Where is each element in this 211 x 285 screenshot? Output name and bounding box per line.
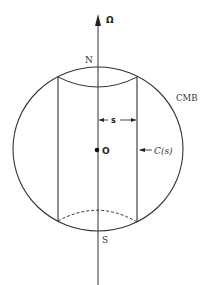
north-pole-label: N [85, 55, 93, 65]
cmb-label: CMB [176, 93, 197, 103]
omega-label: Ω [106, 15, 114, 25]
center-point [95, 148, 100, 153]
center-label: O [102, 146, 110, 156]
south-pole-label: S [102, 235, 108, 245]
axis-arrowhead-icon [95, 14, 101, 26]
cylinder-pointer-arrow-icon [139, 148, 145, 152]
core-cylinder-diagram: Ω N CMB s O C(s) S [0, 0, 211, 285]
cylinder-label: C(s) [154, 146, 173, 156]
s-label: s [111, 116, 116, 125]
s-arrow-right-icon [131, 118, 136, 122]
s-arrow-left-icon [99, 118, 104, 122]
